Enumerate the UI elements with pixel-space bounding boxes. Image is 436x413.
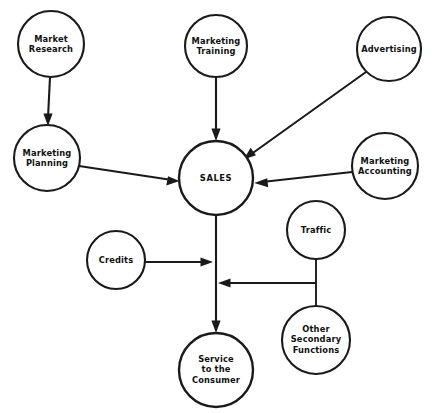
node-layer [14, 11, 421, 407]
edge-sales-to-service-consumer [211, 215, 220, 333]
node-traffic[interactable] [287, 201, 345, 259]
edge-secondary-junction-to-trunk [218, 278, 316, 287]
flow-diagram-svg [0, 0, 436, 413]
node-market-research[interactable] [18, 11, 84, 77]
node-service-consumer[interactable] [179, 333, 253, 407]
node-marketing-training[interactable] [185, 15, 247, 77]
edge-marketing-accounting-to-sales [254, 172, 352, 187]
node-credits[interactable] [87, 231, 145, 289]
node-advertising[interactable] [357, 17, 421, 81]
node-marketing-planning[interactable] [14, 125, 80, 191]
node-marketing-accounting[interactable] [352, 133, 418, 199]
edge-credits-to-trunk [145, 257, 213, 266]
node-sales[interactable] [179, 141, 253, 215]
edge-market-research-to-marketing-planning [43, 77, 52, 126]
diagram-canvas: Market Research Marketing Training Adver… [0, 0, 436, 413]
node-other-secondary[interactable] [282, 306, 350, 374]
edge-marketing-planning-to-sales [79, 166, 180, 185]
edge-advertising-to-sales [244, 72, 366, 160]
edge-marketing-training-to-sales [211, 77, 220, 141]
